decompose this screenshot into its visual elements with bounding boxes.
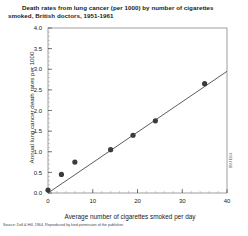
side-credit: BMJ 1964	[229, 153, 233, 168]
x-tick-label: 30	[179, 198, 186, 204]
plot-frame	[48, 28, 227, 193]
data-point	[59, 172, 64, 177]
y-tick-label: 0.0	[34, 190, 43, 196]
x-tick-label: 20	[134, 198, 141, 204]
x-axis-label: Average number of cigarettes smoked per …	[30, 213, 230, 220]
data-point	[72, 159, 77, 164]
data-point	[202, 81, 207, 86]
x-tick-label: 0	[46, 198, 50, 204]
y-tick-label: 4.0	[34, 25, 43, 31]
y-tick-label: 0.5	[34, 170, 43, 176]
y-tick-label: 3.5	[34, 46, 43, 52]
data-point	[130, 133, 135, 138]
y-tick-label: 2.5	[34, 87, 43, 93]
scatter-plot: 0.00.51.01.52.02.53.03.54.0010203040	[0, 0, 248, 236]
regression-line	[48, 71, 227, 193]
data-point	[45, 188, 50, 193]
y-tick-label: 1.0	[34, 149, 43, 155]
data-point	[108, 147, 113, 152]
data-point	[153, 118, 158, 123]
y-axis-label: Annual lung cancer death rates per 1000	[28, 33, 35, 183]
x-tick-label: 40	[224, 198, 231, 204]
source-note: Source: Doll & Hill, 1964. Reproduced by…	[3, 223, 243, 228]
x-tick-label: 10	[89, 198, 96, 204]
y-tick-label: 2.0	[34, 108, 43, 114]
y-tick-label: 3.0	[34, 66, 43, 72]
figure-container: Death rates from lung cancer (per 1000) …	[0, 0, 248, 236]
y-tick-label: 1.5	[34, 128, 43, 134]
